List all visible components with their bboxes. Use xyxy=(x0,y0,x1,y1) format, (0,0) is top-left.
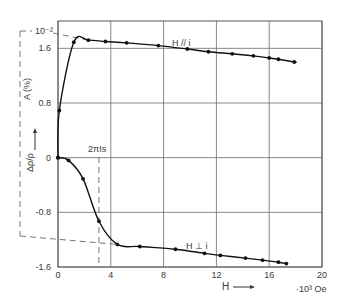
y-tick-label: -1.6 xyxy=(35,262,51,272)
x-tick-label: 20 xyxy=(317,270,327,280)
data-point xyxy=(207,50,211,54)
saturation-annotation: 2πIs xyxy=(88,144,107,154)
y-axis-arrowhead-icon xyxy=(33,128,37,133)
data-point xyxy=(230,52,234,56)
data-point xyxy=(292,60,296,64)
x-axis-arrowhead-icon xyxy=(250,285,255,289)
x-unit-label: ·10³ Oe xyxy=(296,284,327,294)
data-point xyxy=(267,56,271,60)
data-point xyxy=(251,54,255,58)
data-point xyxy=(218,253,222,257)
data-point xyxy=(244,256,248,260)
lower-y-label: Δρ/ρ xyxy=(25,153,35,172)
data-point xyxy=(67,159,71,163)
x-tick-label: 12 xyxy=(211,270,221,280)
data-point xyxy=(56,156,60,160)
magnetoresistance-chart: 0481216201.60.80-0.8-1.6 H ·10³ Oe 10⁻² … xyxy=(0,0,343,308)
data-point xyxy=(261,258,265,262)
y-tick-label: 1.6 xyxy=(38,43,51,53)
data-point xyxy=(97,219,101,223)
data-point xyxy=(174,247,178,251)
series-label-parallel: H // i xyxy=(172,38,191,48)
data-point xyxy=(86,38,90,42)
scale-note: 10⁻² xyxy=(35,26,53,36)
y-tick-label: -0.8 xyxy=(35,207,51,217)
x-tick-label: 4 xyxy=(108,270,113,280)
data-point xyxy=(138,245,142,249)
data-point xyxy=(156,44,160,48)
data-point xyxy=(57,109,61,113)
data-point xyxy=(277,260,281,264)
data-point xyxy=(125,41,129,45)
data-point xyxy=(277,57,281,61)
series-line-parallel xyxy=(58,36,296,157)
x-tick-label: 8 xyxy=(161,270,166,280)
data-point xyxy=(203,251,207,255)
data-point xyxy=(72,40,76,44)
scale-bracket-slant-bottom xyxy=(20,236,117,244)
data-point xyxy=(104,40,108,44)
data-point xyxy=(116,243,120,247)
data-point xyxy=(81,177,85,181)
y-tick-label: 0.8 xyxy=(38,98,51,108)
data-point xyxy=(284,262,288,266)
x-tick-label: 16 xyxy=(264,270,274,280)
series-label-perpendicular: H ⊥ i xyxy=(186,241,208,251)
upper-y-label: A (%) xyxy=(22,78,32,100)
y-tick-label: 0 xyxy=(46,153,51,163)
x-axis-label: H xyxy=(222,281,229,292)
series-line-perpendicular xyxy=(58,158,287,264)
x-tick-label: 0 xyxy=(55,270,60,280)
